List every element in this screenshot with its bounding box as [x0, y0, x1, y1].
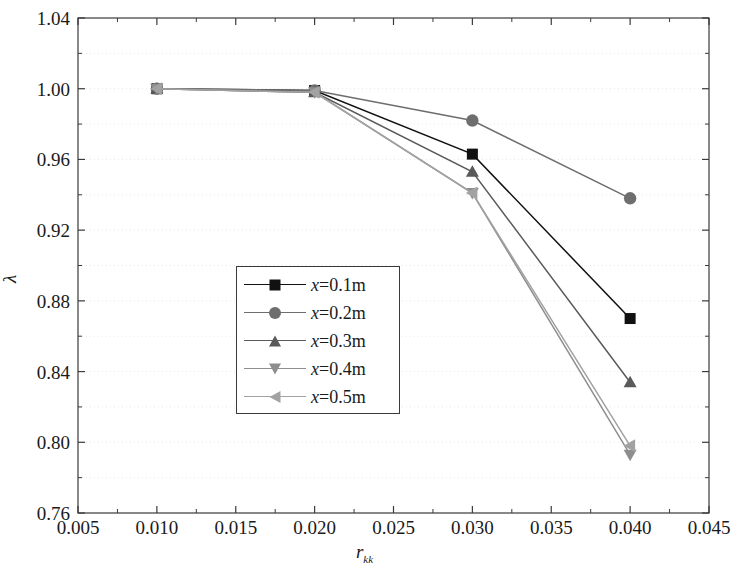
- legend-item-1[interactable]: x=0.1m: [237, 271, 399, 299]
- legend-item-2[interactable]: x=0.2m: [237, 299, 399, 327]
- legend-label: x=0.4m: [306, 360, 366, 378]
- legend-sample: [244, 275, 306, 295]
- legend-item-5[interactable]: x=0.5m: [237, 383, 399, 411]
- x-axis-label: rkk: [0, 541, 729, 565]
- legend-label: x=0.3m: [306, 332, 366, 350]
- legend-item-4[interactable]: x=0.4m: [237, 355, 399, 383]
- x-tick-label: 0.020: [270, 518, 360, 538]
- data-point-marker: [466, 165, 479, 177]
- legend-marker-square-icon: [270, 280, 281, 291]
- y-tick-label: 1.04: [8, 9, 70, 28]
- legend: x=0.1mx=0.2mx=0.3mx=0.4mx=0.5m: [236, 266, 400, 414]
- x-tick-label: 0.015: [191, 518, 281, 538]
- y-tick-label: 0.84: [8, 362, 70, 381]
- legend-label: x=0.5m: [306, 388, 366, 406]
- legend-label: x=0.2m: [306, 304, 366, 322]
- x-tick-label: 0.040: [585, 518, 675, 538]
- y-tick-label: 1.00: [8, 79, 70, 98]
- legend-sample: [244, 387, 306, 407]
- data-point-marker: [624, 376, 637, 388]
- x-tick-label: 0.035: [506, 518, 596, 538]
- x-axis-label-subscript: kk: [363, 553, 373, 565]
- y-tick-label: 0.80: [8, 433, 70, 452]
- x-tick-label: 0.010: [112, 518, 202, 538]
- y-axis-label: λ: [0, 275, 21, 283]
- x-tick-label: 0.030: [427, 518, 517, 538]
- legend-label: x=0.1m: [306, 276, 366, 294]
- data-point-marker: [467, 149, 478, 160]
- legend-item-3[interactable]: x=0.3m: [237, 327, 399, 355]
- legend-marker-circle-icon: [269, 307, 281, 319]
- data-point-marker: [466, 114, 478, 126]
- data-point-marker: [624, 192, 636, 204]
- legend-sample: [244, 331, 306, 351]
- legend-marker-triangle-up-icon: [269, 336, 281, 347]
- legend-sample: [244, 303, 306, 323]
- y-tick-label: 0.96: [8, 150, 70, 169]
- legend-marker-triangle-down-icon: [269, 364, 281, 375]
- legend-sample: [244, 359, 306, 379]
- x-tick-label: 0.045: [664, 518, 735, 538]
- legend-marker-triangle-left-icon: [270, 391, 281, 403]
- x-tick-label: 0.005: [33, 518, 123, 538]
- x-tick-label: 0.025: [349, 518, 439, 538]
- y-tick-label: 0.92: [8, 221, 70, 240]
- data-point-marker: [625, 313, 636, 324]
- y-tick-label: 0.88: [8, 291, 70, 310]
